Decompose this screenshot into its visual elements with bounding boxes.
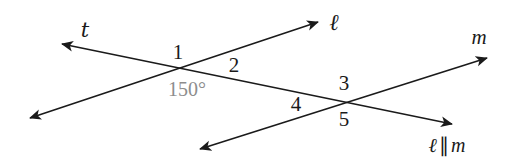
angle-label-1: 1 <box>173 42 184 63</box>
parallel-notation: ℓ∥m <box>429 135 466 155</box>
line-label-ell: ℓ <box>329 11 339 34</box>
angle-label-5: 5 <box>339 109 350 130</box>
angle-label-2: 2 <box>229 55 240 76</box>
line-ell <box>30 22 318 118</box>
lines-group <box>30 22 487 149</box>
angle-label-4: 4 <box>291 94 302 115</box>
line-t <box>62 44 452 124</box>
geometry-figure: t ℓ m 1 2 150° 3 4 5 ℓ∥m <box>0 0 511 167</box>
angle-measure-150: 150° <box>168 79 206 99</box>
line-label-m: m <box>471 27 486 48</box>
line-label-t: t <box>81 20 89 41</box>
parallel-symbol-icon: ∥ <box>437 134 451 156</box>
parallel-notation-m: m <box>451 134 465 156</box>
angle-label-3: 3 <box>339 73 350 94</box>
